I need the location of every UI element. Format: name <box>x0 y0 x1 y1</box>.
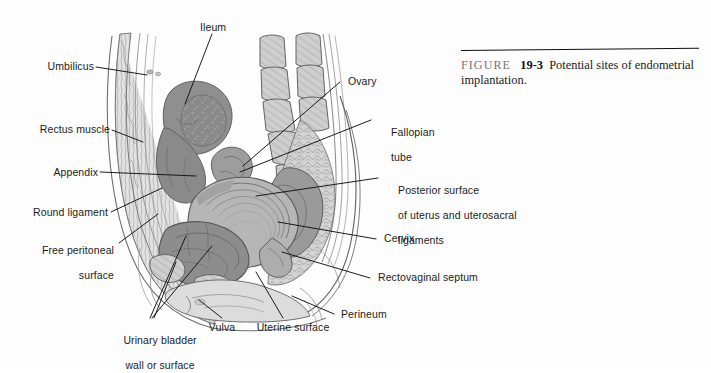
label-fallopian-tube-line2: tube <box>391 151 412 163</box>
label-vulva: Vulva <box>199 321 245 334</box>
label-cervix: Cervix <box>384 232 444 245</box>
label-urinary-bladder-line2: wall or surface <box>125 359 194 371</box>
caption-figure-number: 19-3 <box>520 58 543 72</box>
label-free-peritoneal-surface-line1: Free peritoneal <box>42 244 114 256</box>
label-ileum: Ileum <box>200 21 260 34</box>
label-free-peritoneal-surface: Free peritoneal surface <box>20 231 114 294</box>
figure-caption-block: FIGURE 19-3 Potential sites of endometri… <box>461 50 699 87</box>
label-uterine-surface: Uterine surface <box>245 321 341 334</box>
label-free-peritoneal-surface-line2: surface <box>79 269 114 281</box>
label-rectus-muscle: Rectus muscle <box>4 123 110 136</box>
label-round-ligament: Round ligament <box>6 206 108 219</box>
label-posterior-surface-line1: Posterior surface <box>398 184 479 196</box>
label-rectovaginal-septum: Rectovaginal septum <box>378 271 508 284</box>
caption-divider-rule <box>461 48 699 51</box>
caption-figure-word: FIGURE <box>461 58 511 72</box>
label-ovary: Ovary <box>348 75 408 88</box>
label-perineum: Perineum <box>341 308 411 321</box>
label-posterior-surface: Posterior surface of uterus and uterosac… <box>386 171 514 259</box>
label-umbilicus: Umbilicus <box>14 60 94 73</box>
label-fallopian-tube-line1: Fallopian <box>391 126 435 138</box>
label-urinary-bladder-line1: Urinary bladder <box>123 334 196 346</box>
label-fallopian-tube: Fallopian tube <box>379 113 449 176</box>
label-posterior-surface-line2: of uterus and uterosacral <box>398 209 517 221</box>
label-urinary-bladder: Urinary bladder wall or surface <box>101 321 207 373</box>
label-appendix: Appendix <box>24 166 98 179</box>
figure-caption-text: FIGURE 19-3 Potential sites of endometri… <box>461 58 699 87</box>
